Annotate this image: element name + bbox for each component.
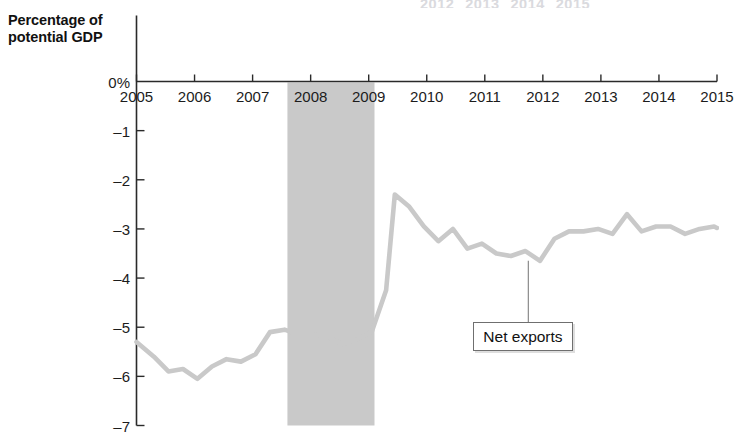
x-axis-tick-label: 2005 [109,88,165,105]
y-axis-tick-label: –7 [86,417,130,433]
y-axis-tick-label: –5 [86,319,130,336]
y-axis-tick-label: –2 [86,171,130,188]
callout-text: Net exports [483,328,562,346]
ghost-tick-label: 2013 [465,0,499,8]
y-axis-tick-labels: 0%–1–2–3–4–5–6–7 [84,0,130,433]
x-axis-tick-label: 2015 [689,88,738,105]
ghost-tick-label: 2014 [511,0,545,8]
data-series [137,195,718,379]
y-axis-ticks [137,131,145,426]
shaded-regions [287,83,374,426]
ghost-top-tick-labels: 2012201320142015 [420,0,720,8]
x-axis-tick-label: 2013 [573,88,629,105]
y-axis-tick-label: –1 [86,122,130,139]
x-axis-tick-label: 2014 [631,88,687,105]
net-exports-callout-label: Net exports [473,322,572,351]
y-axis-tick-label: –6 [86,368,130,385]
x-axis-tick-label: 2010 [399,88,455,105]
x-axis-tick-label: 2006 [167,88,223,105]
y-axis-tick-label: –3 [86,220,130,237]
x-axis-tick-label: 2007 [225,88,281,105]
x-axis-tick-label: 2012 [515,88,571,105]
x-axis-ticks [137,75,718,82]
ghost-tick-label: 2012 [420,0,454,8]
series-line-net-exports [137,195,718,379]
recession-band [287,83,374,426]
x-axis-tick-label: 2008 [283,88,339,105]
x-axis-tick-label: 2009 [341,88,397,105]
y-axis-tick-label: –4 [86,270,130,287]
x-axis-tick-label: 2011 [457,88,513,105]
ghost-tick-label: 2015 [556,0,590,8]
